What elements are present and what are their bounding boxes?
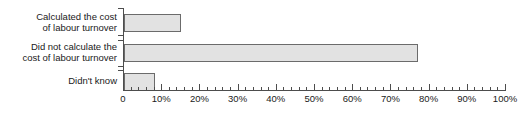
value-tick-minor (436, 87, 437, 90)
value-tick-minor (207, 87, 208, 90)
value-tick-minor (452, 87, 453, 90)
value-tick-label: 30% (228, 93, 247, 105)
value-tick-major (352, 84, 353, 90)
value-tick-minor (215, 87, 216, 90)
value-tick-major (314, 84, 315, 90)
value-tick-minor (474, 87, 475, 90)
category-tick-0 (118, 35, 123, 36)
bar-segment (124, 44, 418, 62)
category-tick-top (118, 8, 123, 9)
value-tick-major (390, 84, 391, 90)
value-tick-minor (345, 87, 346, 90)
value-tick-minor (306, 87, 307, 90)
value-tick-major (276, 84, 277, 90)
category-label-2: Didn't know (0, 75, 117, 86)
value-tick-minor (482, 87, 483, 90)
value-tick-major (199, 84, 200, 90)
value-tick-label: 100% (493, 93, 517, 105)
value-tick-minor (322, 87, 323, 90)
value-tick-minor (268, 87, 269, 90)
value-tick-minor (360, 87, 361, 90)
value-axis-labels: 010%20%30%40%50%60%70%80%90%100% (123, 93, 506, 107)
value-tick-minor (490, 87, 491, 90)
value-tick-minor (230, 87, 231, 90)
value-tick-minor (261, 87, 262, 90)
category-label-1: Did not calculate the cost of labour tur… (0, 41, 117, 63)
value-tick-minor (337, 87, 338, 90)
category-label-0: Calculated the cost of labour turnover (0, 11, 117, 33)
value-tick-major (161, 84, 162, 90)
bar-chart: Calculated the cost of labour turnover D… (0, 0, 528, 122)
value-tick-minor (291, 87, 292, 90)
value-tick-label: 80% (419, 93, 438, 105)
value-tick-minor (146, 87, 147, 90)
value-tick-minor (497, 87, 498, 90)
value-tick-minor (192, 87, 193, 90)
value-tick-minor (398, 87, 399, 90)
category-axis-labels: Calculated the cost of labour turnover D… (0, 0, 117, 95)
value-tick-minor (367, 87, 368, 90)
value-tick-minor (299, 87, 300, 90)
value-axis-ticks (123, 84, 506, 90)
value-tick-minor (253, 87, 254, 90)
value-tick-label: 40% (266, 93, 285, 105)
plot-area (123, 8, 505, 90)
value-tick-minor (222, 87, 223, 90)
value-tick-minor (375, 87, 376, 90)
value-tick-minor (421, 87, 422, 90)
value-tick-minor (383, 87, 384, 90)
category-tick-1 (118, 40, 123, 41)
value-tick-label: 20% (190, 93, 209, 105)
value-tick-minor (283, 87, 284, 90)
value-tick-minor (406, 87, 407, 90)
value-tick-minor (169, 87, 170, 90)
value-tick-minor (184, 87, 185, 90)
value-tick-label: 60% (343, 93, 362, 105)
value-tick-label: 90% (457, 93, 476, 105)
value-tick-minor (154, 87, 155, 90)
value-tick-label: 10% (152, 93, 171, 105)
value-tick-minor (176, 87, 177, 90)
bar-segment (124, 14, 181, 32)
value-tick-minor (459, 87, 460, 90)
value-tick-minor (413, 87, 414, 90)
value-tick-label: 50% (304, 93, 323, 105)
value-tick-minor (245, 87, 246, 90)
value-tick-label: 70% (381, 93, 400, 105)
value-tick-label: 0 (120, 93, 125, 105)
value-tick-major (429, 84, 430, 90)
value-tick-major (505, 84, 506, 90)
value-tick-minor (444, 87, 445, 90)
value-tick-minor (131, 87, 132, 90)
value-tick-major (238, 84, 239, 90)
category-tick-3 (118, 70, 123, 71)
category-tick-2 (118, 66, 123, 67)
value-tick-major (123, 84, 124, 90)
value-tick-minor (138, 87, 139, 90)
value-tick-major (467, 84, 468, 90)
value-tick-minor (329, 87, 330, 90)
value-axis-line (123, 90, 506, 91)
